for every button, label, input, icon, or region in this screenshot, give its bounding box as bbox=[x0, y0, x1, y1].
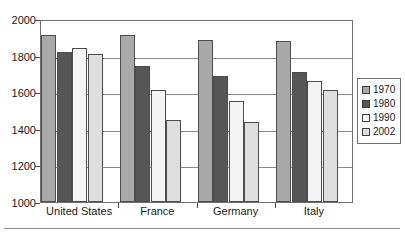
legend-item-label: 1980 bbox=[373, 99, 395, 109]
bar-1980-united-states bbox=[57, 52, 72, 202]
bar-group bbox=[276, 21, 354, 202]
bar-1970-italy bbox=[276, 41, 291, 202]
y-axis-tick-mark bbox=[35, 20, 40, 21]
bar-2002-france bbox=[166, 120, 181, 202]
legend-swatch-icon bbox=[362, 114, 370, 122]
legend-item-label: 2002 bbox=[373, 127, 395, 137]
bar-2002-germany bbox=[244, 122, 259, 202]
bar-1990-italy bbox=[307, 81, 322, 202]
bar-2002-italy bbox=[323, 90, 338, 202]
y-axis-tick-label: 1400 bbox=[0, 124, 36, 135]
chart-legend: 1970198019902002 bbox=[357, 78, 401, 144]
legend-item-label: 1990 bbox=[373, 113, 395, 123]
legend-item-1970[interactable]: 1970 bbox=[362, 83, 397, 97]
y-axis-tick-mark bbox=[35, 166, 40, 167]
bar-1990-france bbox=[151, 90, 166, 202]
y-axis-tick-label: 1800 bbox=[0, 51, 36, 62]
x-axis-tick-label: France bbox=[118, 206, 196, 217]
legend-item-label: 1970 bbox=[373, 85, 395, 95]
legend-item-1990[interactable]: 1990 bbox=[362, 111, 397, 125]
legend-item-2002[interactable]: 2002 bbox=[362, 125, 397, 139]
bar-1990-germany bbox=[229, 101, 244, 202]
bar-1980-france bbox=[135, 66, 150, 202]
plot-area bbox=[40, 20, 353, 203]
bar-1980-germany bbox=[213, 76, 228, 202]
y-axis-tick-mark bbox=[35, 203, 40, 204]
y-axis-tick-mark bbox=[35, 57, 40, 58]
y-axis-tick-label: 1000 bbox=[0, 198, 36, 209]
figure-bottom-rule bbox=[4, 228, 400, 229]
x-axis-tick-label: Italy bbox=[275, 206, 353, 217]
bar-group bbox=[198, 21, 276, 202]
legend-swatch-icon bbox=[362, 86, 370, 94]
y-axis-tick-mark bbox=[35, 130, 40, 131]
bar-1970-united-states bbox=[41, 35, 56, 202]
y-axis-tick-label: 1600 bbox=[0, 88, 36, 99]
y-axis-tick-label: 2000 bbox=[0, 15, 36, 26]
bar-1970-france bbox=[120, 35, 135, 202]
legend-swatch-icon bbox=[362, 128, 370, 136]
x-axis-tick-label: Germany bbox=[197, 206, 275, 217]
bar-group bbox=[41, 21, 119, 202]
y-axis-tick-mark bbox=[35, 93, 40, 94]
bar-group bbox=[119, 21, 197, 202]
bar-1990-united-states bbox=[72, 48, 87, 202]
y-axis-tick-label: 1200 bbox=[0, 161, 36, 172]
bar-1980-italy bbox=[292, 72, 307, 202]
legend-swatch-icon bbox=[362, 100, 370, 108]
legend-item-1980[interactable]: 1980 bbox=[362, 97, 397, 111]
x-axis-tick-label: United States bbox=[40, 206, 118, 217]
bar-1970-germany bbox=[198, 40, 213, 202]
bar-2002-united-states bbox=[88, 54, 103, 202]
chart-figure: 1970198019902002 10001200140016001800200… bbox=[0, 0, 405, 242]
